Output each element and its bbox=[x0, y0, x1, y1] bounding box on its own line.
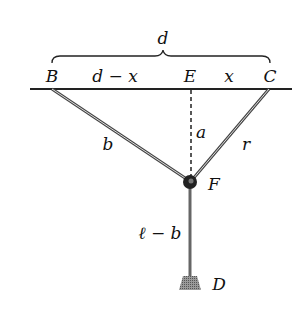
label-b-length: b bbox=[103, 134, 114, 154]
label-x: x bbox=[224, 66, 234, 86]
label-a: a bbox=[196, 122, 206, 142]
label-f: F bbox=[207, 174, 221, 194]
pulley-hub bbox=[189, 179, 194, 184]
label-l-minus-b: ℓ − b bbox=[138, 223, 181, 243]
dimension-brace bbox=[52, 50, 270, 63]
label-e: E bbox=[183, 66, 197, 86]
label-b-point: B bbox=[45, 66, 59, 86]
label-r: r bbox=[242, 134, 251, 154]
label-c: C bbox=[263, 66, 276, 86]
weight-d-icon bbox=[179, 276, 201, 290]
rod-b-highlight bbox=[52, 89, 188, 180]
label-d: d bbox=[158, 28, 169, 48]
pulley-diagram: d B d − x E x C a b r F ℓ − b D bbox=[0, 0, 299, 317]
label-d-point: D bbox=[211, 274, 226, 294]
label-d-minus-x: d − x bbox=[92, 66, 138, 86]
